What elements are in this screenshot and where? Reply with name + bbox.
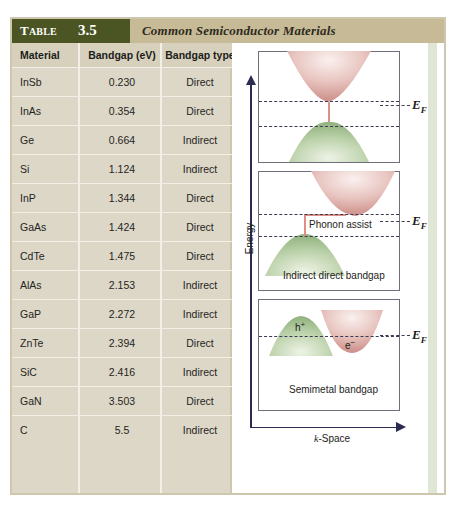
cell-bandgap: 1.424 xyxy=(82,213,162,242)
cell-material: GaP xyxy=(12,300,82,329)
cell-material: CdTe xyxy=(12,242,82,271)
conduction-edge-dashed-line xyxy=(259,101,399,102)
phonon-vertical-arrow xyxy=(304,215,306,237)
table-row: ZnTe2.394Direct xyxy=(12,329,238,358)
fermi-dashed-line-3 xyxy=(259,336,399,337)
table-row: GaAs1.424Direct xyxy=(12,213,238,242)
indirect-bandgap-caption: Indirect direct bandgap xyxy=(283,270,385,281)
table-row: InP1.344Direct xyxy=(12,184,238,213)
cell-bandgap: 3.503 xyxy=(82,387,162,416)
cell-bandgap: 5.5 xyxy=(82,416,162,445)
cell-type: Indirect xyxy=(162,155,238,184)
cell-material: AlAs xyxy=(12,271,82,300)
column-divider-2 xyxy=(160,43,162,493)
cell-bandgap: 1.124 xyxy=(82,155,162,184)
table-row: AlAs2.153Indirect xyxy=(12,271,238,300)
cell-type: Direct xyxy=(162,68,238,97)
figure-container: TABLE 3.5 Common Semiconductor Materials… xyxy=(10,17,446,495)
cell-bandgap: 0.230 xyxy=(82,68,162,97)
fermi-level-label-2: EF xyxy=(412,213,427,231)
hole-carrier-label: h+ xyxy=(295,320,305,333)
table-row: SiC2.416Indirect xyxy=(12,358,238,387)
cell-bandgap: 1.344 xyxy=(82,184,162,213)
table-title: Common Semiconductor Materials xyxy=(142,23,336,39)
energy-axis-arrow-icon xyxy=(246,75,256,85)
cell-material: InAs xyxy=(12,97,82,126)
panel-direct-bandgap xyxy=(258,51,400,163)
cell-material: GaAs xyxy=(12,213,82,242)
electron-carrier-label: e− xyxy=(345,338,355,351)
kspace-axis-line xyxy=(250,427,400,429)
decorative-green-strip xyxy=(428,43,437,493)
cell-material: C xyxy=(12,416,82,445)
energy-axis-label: Energy xyxy=(244,209,255,269)
column-header-type: Bandgap type xyxy=(162,43,238,68)
table-row: InSb0.230Direct xyxy=(12,68,238,97)
table-word: TABLE xyxy=(20,23,57,39)
panel-semimetal-bandgap: h+ e− Semimetal bandgap xyxy=(258,299,400,411)
valence-band-dome xyxy=(289,122,369,162)
band-diagram-area: Energy k-Space xyxy=(232,43,444,493)
table-row: GaP2.272Indirect xyxy=(12,300,238,329)
cell-bandgap: 1.475 xyxy=(82,242,162,271)
table-body: InSb0.230Direct InAs0.354Direct Ge0.664I… xyxy=(12,68,238,445)
table-row: Ge0.664Indirect xyxy=(12,126,238,155)
table-row: C5.5Indirect xyxy=(12,416,238,445)
fermi-level-label-3: EF xyxy=(412,327,427,345)
table-header-row: Material Bandgap (eV) Bandgap type xyxy=(12,43,238,68)
conduction-band-cone xyxy=(311,171,395,217)
cell-bandgap: 2.394 xyxy=(82,329,162,358)
valence-edge-dashed-line xyxy=(259,126,399,127)
cell-material: InSb xyxy=(12,68,82,97)
fermi-dashed-line-1 xyxy=(380,105,410,106)
cell-type: Direct xyxy=(162,387,238,416)
table-row: CdTe1.475Direct xyxy=(12,242,238,271)
phonon-assist-label: Phonon assist xyxy=(309,219,372,230)
cell-type: Indirect xyxy=(162,358,238,387)
cell-bandgap: 2.153 xyxy=(82,271,162,300)
cell-bandgap: 2.272 xyxy=(82,300,162,329)
cell-type: Direct xyxy=(162,97,238,126)
cell-type: Direct xyxy=(162,329,238,358)
valence-edge-dashed-line xyxy=(259,236,399,237)
cell-type: Direct xyxy=(162,213,238,242)
figure-inner: TABLE 3.5 Common Semiconductor Materials… xyxy=(10,17,446,495)
column-divider-1 xyxy=(78,43,80,493)
fermi-dashed-line-4 xyxy=(380,335,410,336)
table-number-badge: TABLE 3.5 xyxy=(12,19,130,43)
cell-material: Si xyxy=(12,155,82,184)
cell-type: Indirect xyxy=(162,300,238,329)
cell-type: Direct xyxy=(162,242,238,271)
column-header-material: Material xyxy=(12,43,82,68)
table-number: 3.5 xyxy=(78,22,97,39)
table-title-bar: TABLE 3.5 Common Semiconductor Materials xyxy=(12,19,444,43)
conduction-edge-dashed-line xyxy=(259,214,399,215)
semimetal-caption: Semimetal bandgap xyxy=(289,384,378,395)
conduction-band-cone xyxy=(287,51,371,103)
table-grid: Material Bandgap (eV) Bandgap type InSb0… xyxy=(12,43,238,444)
cell-bandgap: 2.416 xyxy=(82,358,162,387)
table-row: InAs0.354Direct xyxy=(12,97,238,126)
panel-indirect-bandgap: Phonon assist Indirect direct bandgap xyxy=(258,171,400,291)
fermi-level-label-1: EF xyxy=(412,97,427,115)
cell-type: Indirect xyxy=(162,126,238,155)
kspace-axis-arrow-icon xyxy=(396,422,406,432)
cell-material: InP xyxy=(12,184,82,213)
cell-bandgap: 0.354 xyxy=(82,97,162,126)
cell-bandgap: 0.664 xyxy=(82,126,162,155)
cell-type: Direct xyxy=(162,184,238,213)
cell-material: SiC xyxy=(12,358,82,387)
table-row: Si1.124Indirect xyxy=(12,155,238,184)
semiconductor-table: Material Bandgap (eV) Bandgap type InSb0… xyxy=(12,43,230,493)
table-row: GaN3.503Direct xyxy=(12,387,238,416)
cell-material: GaN xyxy=(12,387,82,416)
cell-type: Indirect xyxy=(162,271,238,300)
column-header-bandgap: Bandgap (eV) xyxy=(82,43,162,68)
fermi-dashed-line-2 xyxy=(380,221,410,222)
cell-type: Indirect xyxy=(162,416,238,445)
cell-material: ZnTe xyxy=(12,329,82,358)
kspace-axis-label: k-Space xyxy=(314,433,350,444)
cell-material: Ge xyxy=(12,126,82,155)
